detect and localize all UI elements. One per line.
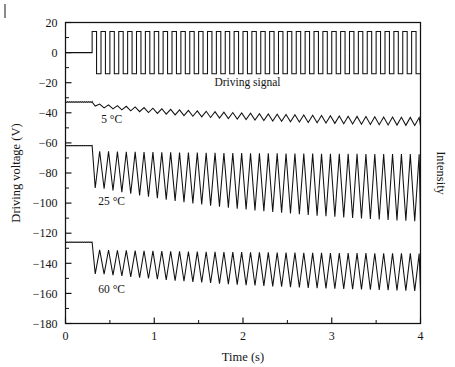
y-tick-label: −20	[39, 76, 58, 90]
figure-root: 200−20−40−60−80−100−120−140−160−18001234…	[0, 0, 455, 367]
driving-signal-label: Driving signal	[214, 76, 280, 89]
x-axis-title: Time (s)	[222, 350, 264, 364]
x-tick-label: 1	[151, 329, 157, 343]
temp-label-25c: 25 °C	[98, 195, 125, 207]
temp-label-5c: 5 °C	[101, 113, 122, 125]
y-tick-label: 20	[46, 16, 58, 30]
x-tick-label: 2	[240, 329, 246, 343]
data-traces	[66, 32, 421, 292]
y-tick-label: −180	[33, 317, 58, 331]
y-tick-label: −160	[33, 287, 58, 301]
axis-tick-labels: 200−20−40−60−80−100−120−140−160−18001234	[33, 16, 424, 343]
temp-label-60c: 60 °C	[98, 283, 125, 295]
y-tick-label: −60	[39, 136, 58, 150]
x-tick-label: 3	[329, 329, 335, 343]
y-tick-label: −80	[39, 166, 58, 180]
trace-25-c	[66, 145, 421, 221]
y-axis-title: Driving voltage (V)	[9, 123, 23, 222]
y-tick-label: −120	[33, 226, 58, 240]
y-axis-title-right: Intensity	[434, 151, 448, 195]
axis-titles: Time (s)Driving voltage (V)Intensity	[9, 123, 448, 363]
y-tick-label: −140	[33, 257, 58, 271]
x-tick-label: 4	[418, 329, 424, 343]
y-tick-label: −40	[39, 106, 58, 120]
x-tick-label: 0	[63, 329, 69, 343]
chart-canvas: 200−20−40−60−80−100−120−140−160−18001234…	[0, 0, 455, 367]
y-tick-label: −100	[33, 196, 58, 210]
trace-driving-signal	[66, 32, 421, 74]
y-tick-label: 0	[52, 46, 58, 60]
